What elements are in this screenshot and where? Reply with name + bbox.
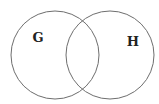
set-g-label: G: [32, 30, 43, 45]
venn-diagram: G H: [0, 0, 159, 104]
set-h-circle: [66, 11, 154, 99]
set-g-circle: [11, 11, 99, 99]
set-h-label: H: [127, 34, 139, 49]
